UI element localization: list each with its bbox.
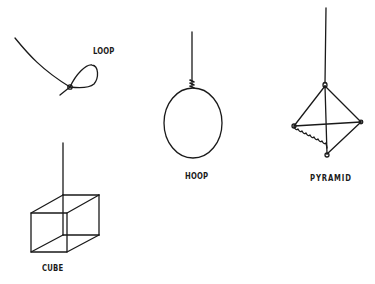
hoop-knot bbox=[190, 80, 194, 88]
wire-shapes-figure bbox=[0, 0, 375, 284]
cube-edge-top-left bbox=[31, 195, 63, 213]
hoop-label: HOOP bbox=[185, 172, 208, 181]
pyramid-edge-apex-right bbox=[325, 86, 361, 122]
cube-edge-top-right bbox=[67, 195, 99, 213]
cube-label: CUBE bbox=[42, 264, 63, 273]
cube-shape bbox=[31, 143, 99, 252]
cube-edge-bottom-right bbox=[67, 235, 99, 252]
loop-string bbox=[15, 38, 70, 87]
pyramid-edge-left-bottom-wavy bbox=[294, 127, 327, 148]
pyramid-edge-right-bottom bbox=[327, 122, 361, 154]
loop-ring bbox=[70, 65, 98, 88]
loop-shape bbox=[15, 38, 98, 95]
pyramid-edge-apex-left bbox=[294, 86, 325, 126]
hoop-shape bbox=[164, 32, 222, 158]
hoop-ring bbox=[164, 88, 222, 158]
pyramid-shape bbox=[292, 8, 363, 157]
cube-front-face bbox=[31, 213, 67, 252]
pyramid-bottom-knot bbox=[325, 153, 329, 157]
pyramid-edge-left-right bbox=[294, 122, 361, 126]
pyramid-label: PYRAMID bbox=[310, 174, 352, 183]
cube-edge-bottom-left bbox=[31, 235, 63, 252]
loop-label: LOOP bbox=[93, 47, 115, 56]
pyramid-string bbox=[325, 8, 326, 83]
figure-canvas: LOOP HOOP PYRAMID CUBE bbox=[0, 0, 375, 284]
